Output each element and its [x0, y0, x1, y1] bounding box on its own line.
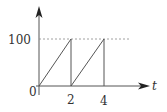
sawtooth-chart: 0 2 4 100 t	[0, 0, 167, 112]
x-tick-4-label: 4	[100, 94, 108, 108]
origin-label: 0	[29, 85, 37, 99]
y-tick-100-label: 100	[8, 33, 31, 47]
x-tick-2-label: 2	[67, 93, 75, 107]
x-axis-label: t	[152, 79, 157, 93]
sawtooth-series	[39, 39, 104, 86]
